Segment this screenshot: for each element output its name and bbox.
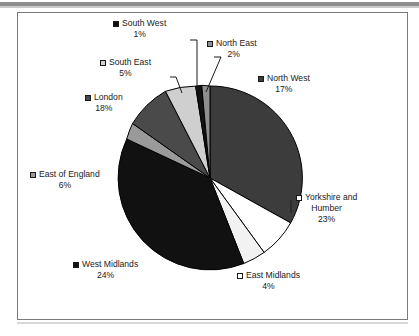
mid-grey-square-icon: [207, 41, 213, 47]
pie-label-south-east-name: South East: [109, 57, 151, 68]
pie-label-london-row: London: [85, 92, 123, 103]
pie-label-east-of-england-pct: 6%: [30, 180, 100, 191]
black-square-icon: [113, 21, 119, 27]
pie-label-east-of-england-row: East of England: [30, 169, 100, 180]
pie-label-yorkshire-row: Yorkshire and: [296, 192, 357, 203]
leader-line-south-west: [190, 40, 197, 90]
pie-label-yorkshire-name1: Yorkshire and: [305, 192, 357, 202]
pie-label-west-midlands[interactable]: West Midlands 24%: [73, 259, 138, 281]
pie-label-east-of-england-name: East of England: [39, 169, 100, 180]
pie-label-london-name: London: [94, 92, 123, 103]
pie-label-london[interactable]: London 18%: [85, 92, 123, 114]
pie-label-north-east[interactable]: North East 2%: [207, 38, 257, 60]
pie-label-north-west-name: North West: [267, 73, 310, 84]
pie-label-east-midlands[interactable]: East Midlands 4%: [237, 270, 300, 292]
pie-label-east-of-england[interactable]: East of England 6%: [30, 169, 100, 191]
pie-label-north-west-row: North West: [258, 73, 310, 84]
pie-slices: [118, 85, 302, 270]
pie-label-east-midlands-name: East Midlands: [246, 270, 300, 281]
pie-label-west-midlands-pct: 24%: [73, 270, 138, 281]
pie-label-yorkshire-and-humber[interactable]: Yorkshire and Humber 23%: [296, 192, 357, 225]
pie-label-north-east-name: North East: [216, 38, 257, 49]
pie-label-north-west[interactable]: North West 17%: [258, 73, 310, 95]
pie-label-yorkshire-pct: 23%: [296, 214, 357, 225]
pie-label-west-midlands-name: West Midlands: [82, 259, 138, 270]
black-square-icon: [73, 262, 79, 268]
dark-grey-square-icon: [85, 95, 91, 101]
screenshot-page: South West 1% North East 2% South East 5…: [0, 0, 419, 336]
pie-label-south-west-row: South West: [113, 18, 166, 29]
pie-label-south-east[interactable]: South East 5%: [100, 57, 151, 79]
pie-label-yorkshire-name2: Humber: [296, 203, 357, 214]
pie-label-north-east-row: North East: [207, 38, 257, 49]
pie-label-south-west[interactable]: South West 1%: [113, 18, 166, 40]
pie-label-north-east-pct: 2%: [207, 49, 257, 60]
pie-label-south-west-name: South West: [122, 18, 166, 29]
pie-label-south-east-row: South East: [100, 57, 151, 68]
dark-grey-square-icon: [258, 76, 264, 82]
white-square-icon: [237, 273, 243, 279]
light-grey-square-icon: [100, 60, 106, 66]
pie-label-north-west-pct: 17%: [258, 84, 310, 95]
pie-label-london-pct: 18%: [85, 103, 123, 114]
pie-label-west-midlands-row: West Midlands: [73, 259, 138, 270]
pie-label-east-midlands-row: East Midlands: [237, 270, 300, 281]
pie-label-south-east-pct: 5%: [100, 68, 151, 79]
mid-grey-square-icon: [30, 172, 36, 178]
pie-label-east-midlands-pct: 4%: [237, 281, 300, 292]
white-square-icon: [296, 195, 302, 201]
pie-label-south-west-pct: 1%: [113, 29, 166, 40]
